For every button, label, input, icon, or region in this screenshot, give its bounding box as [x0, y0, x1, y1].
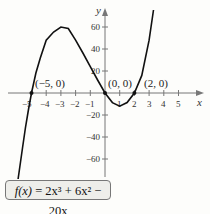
y-axis-label: y	[95, 4, 101, 16]
y-axis-arrow-icon	[102, 8, 108, 16]
function-formula: f(x) = 2x³ + 6x² − 20x	[5, 180, 111, 200]
ytick-label: 60	[91, 22, 101, 32]
xtick-label: 2	[132, 99, 137, 109]
intercept-point	[30, 91, 34, 95]
intercept-point	[103, 91, 107, 95]
ytick-label: 40	[91, 44, 101, 54]
formula-lhs: f(x)	[15, 184, 32, 198]
point-label: (0, 0)	[108, 77, 132, 90]
xtick-label: 5	[176, 99, 181, 109]
ytick-label: −60	[86, 154, 101, 164]
xtick-label: −3	[55, 99, 65, 109]
xtick-label: −2	[70, 99, 80, 109]
intercept-point	[132, 91, 136, 95]
ytick-label: −20	[86, 110, 101, 120]
point-label: (−5, 0)	[35, 77, 65, 90]
ytick-label: −40	[86, 132, 101, 142]
xtick-label: −4	[40, 99, 50, 109]
point-label: (2, 0)	[144, 77, 168, 90]
xtick-label: −1	[85, 99, 95, 109]
xtick-label: 1	[117, 99, 122, 109]
x-axis-label: x	[196, 96, 202, 108]
xtick-label: 4	[161, 99, 166, 109]
xtick-label: 3	[147, 99, 152, 109]
